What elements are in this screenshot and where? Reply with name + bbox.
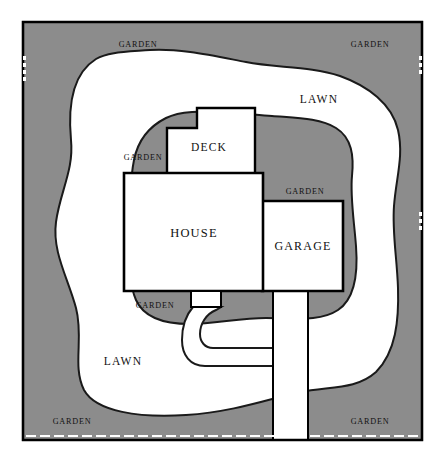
dash-mark-bottom-edge-20 (310, 435, 320, 437)
dash-mark-bottom-edge-1 (40, 435, 50, 437)
area-label-lawn-lower-left: LAWN (104, 355, 142, 367)
dash-mark-bottom-edge-19 (292, 435, 302, 437)
dash-mark-bottom-edge-12 (194, 435, 204, 437)
dash-mark-bottom-edge-26 (394, 435, 404, 437)
dash-mark-bottom-edge-14 (222, 435, 232, 437)
dash-mark-bottom-edge-11 (180, 435, 190, 437)
dash-mark-right-edge-2 (419, 70, 422, 74)
area-label-garden-mid-left: GARDEN (124, 153, 163, 162)
area-label-garden-bottom-right: GARDEN (351, 417, 390, 426)
dash-mark-bottom-edge-24 (366, 435, 376, 437)
area-label-garden-top-left: GARDEN (119, 40, 158, 49)
dash-mark-bottom-edge-8 (138, 435, 148, 437)
dash-mark-bottom-edge-13 (208, 435, 218, 437)
dash-mark-bottom-edge-15 (236, 435, 246, 437)
area-label-garden-lower-left: GARDEN (136, 301, 175, 310)
dash-mark-bottom-edge-22 (338, 435, 348, 437)
dash-mark-bottom-edge-6 (110, 435, 120, 437)
dash-mark-bottom-edge-7 (124, 435, 134, 437)
dash-mark-bottom-edge-3 (68, 435, 78, 437)
dash-mark-bottom-edge-17 (264, 435, 274, 437)
dash-mark-bottom-edge-16 (250, 435, 260, 437)
dash-mark-bottom-edge-4 (82, 435, 92, 437)
dash-mark-right-edge-1 (419, 63, 422, 67)
dash-mark-left-edge-3 (23, 77, 26, 81)
dash-mark-left-edge-0 (23, 56, 26, 60)
driveway-outline (273, 291, 308, 440)
site-plan-canvas: GARDENGARDENLAWNGARDENGARDENGARDENLAWNGA… (0, 0, 444, 461)
site-plan-diagram: GARDENGARDENLAWNGARDENGARDENGARDENLAWNGA… (0, 0, 444, 461)
dash-mark-bottom-edge-9 (152, 435, 162, 437)
dash-mark-bottom-edge-0 (26, 435, 36, 437)
garage-label: GARAGE (274, 239, 331, 253)
dash-mark-bottom-edge-5 (96, 435, 106, 437)
dash-mark-bottom-edge-2 (54, 435, 64, 437)
dash-mark-left-edge-2 (23, 70, 26, 74)
dash-mark-bottom-edge-25 (380, 435, 390, 437)
dash-mark-left-edge-1 (23, 63, 26, 67)
dash-mark-bottom-edge-18 (278, 435, 288, 437)
dash-mark-bottom-edge-23 (352, 435, 362, 437)
dash-mark-right-edge-4 (419, 219, 422, 223)
dash-mark-bottom-edge-27 (408, 435, 418, 437)
dash-mark-right-edge-3 (419, 212, 422, 216)
house-label: HOUSE (170, 226, 218, 240)
deck-label: DECK (191, 141, 227, 153)
area-label-garden-bottom-left: GARDEN (53, 417, 92, 426)
dash-mark-right-edge-0 (419, 56, 422, 60)
area-label-garden-top-right: GARDEN (351, 40, 390, 49)
dash-mark-right-edge-5 (419, 226, 422, 230)
dash-mark-bottom-edge-21 (324, 435, 334, 437)
porch-outline (191, 291, 221, 307)
area-label-garden-mid-right: GARDEN (286, 187, 325, 196)
area-label-lawn-upper-right: LAWN (300, 93, 338, 105)
dash-mark-bottom-edge-10 (166, 435, 176, 437)
